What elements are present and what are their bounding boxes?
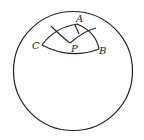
label-p: P	[70, 43, 78, 54]
arc-through-p-right	[70, 28, 96, 43]
label-c: C	[32, 40, 40, 51]
label-b: B	[98, 45, 106, 56]
label-a: A	[75, 13, 83, 24]
sphere-outline	[14, 12, 133, 131]
arc-from-a-down	[75, 25, 79, 34]
sphere-diagram: A B C P	[0, 0, 144, 140]
